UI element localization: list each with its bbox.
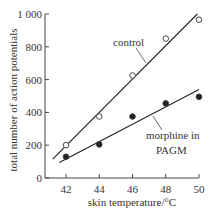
filled-circle-point bbox=[196, 94, 202, 100]
filled-circle-point bbox=[96, 142, 102, 148]
control-label: control bbox=[113, 36, 144, 48]
morphine-label-line2: PAGM bbox=[156, 144, 187, 156]
x-axis-title: skin temperature/°C bbox=[88, 196, 176, 208]
control-leader bbox=[136, 48, 146, 63]
x-tick-label: 50 bbox=[194, 183, 206, 195]
filled-circle-point bbox=[63, 154, 69, 160]
x-tick-label: 42 bbox=[61, 183, 72, 195]
x-tick-label: 44 bbox=[94, 183, 106, 195]
y-tick-label: 600 bbox=[26, 74, 43, 86]
open-circle-point bbox=[63, 142, 69, 148]
chart: 02004006008001 0004244464850skin tempera… bbox=[0, 0, 215, 210]
open-circle-point bbox=[130, 73, 136, 79]
x-tick-label: 46 bbox=[127, 183, 139, 195]
open-circle-point bbox=[196, 17, 202, 23]
y-tick-label: 400 bbox=[26, 106, 43, 118]
axes: 02004006008001 0004244464850skin tempera… bbox=[7, 8, 205, 208]
y-tick-label: 0 bbox=[37, 172, 43, 184]
morphine-label-line1: morphine in bbox=[146, 129, 200, 141]
filled-circle-point bbox=[163, 101, 169, 107]
morphine-leader bbox=[153, 116, 162, 130]
y-axis-title: total number of action potentials bbox=[7, 29, 19, 172]
x-tick-label: 48 bbox=[160, 183, 172, 195]
open-circle-point bbox=[96, 114, 102, 120]
y-tick-label: 200 bbox=[26, 139, 43, 151]
open-circle-point bbox=[163, 36, 169, 42]
y-tick-label: 800 bbox=[26, 41, 43, 53]
filled-circle-point bbox=[130, 114, 136, 120]
y-tick-label: 1 000 bbox=[17, 8, 42, 20]
